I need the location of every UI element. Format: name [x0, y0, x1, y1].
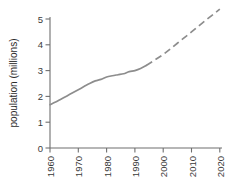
y-tick-label-0: 0: [38, 143, 43, 154]
x-tick-label-2020: 2020: [215, 156, 226, 177]
y-tick-label-1: 1: [38, 117, 43, 128]
population-line-chart: 0 1 2 3 4 5 1960 1970 1980 1990 2000 201…: [0, 0, 227, 194]
population-projected-line: [146, 9, 220, 65]
x-tick-label-1980: 1980: [102, 156, 113, 177]
x-tick-label-1970: 1970: [73, 156, 84, 177]
y-tick-label-3: 3: [38, 65, 43, 76]
x-tick-label-2000: 2000: [158, 156, 169, 177]
population-observed-line: [50, 65, 146, 104]
x-axis-ticks: [50, 148, 220, 153]
y-axis-title: population (millions): [8, 39, 19, 128]
y-tick-label-2: 2: [38, 91, 43, 102]
chart-canvas: 0 1 2 3 4 5 1960 1970 1980 1990 2000 201…: [0, 0, 227, 194]
y-axis-ticks: [46, 19, 51, 148]
x-tick-label-1960: 1960: [45, 156, 56, 177]
y-tick-label-4: 4: [38, 39, 43, 50]
x-tick-label-1990: 1990: [130, 156, 141, 177]
x-tick-label-2010: 2010: [187, 156, 198, 177]
y-tick-label-5: 5: [38, 14, 43, 25]
